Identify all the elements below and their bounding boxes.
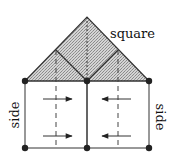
folding-diagram: square side side xyxy=(0,0,173,164)
vertex-dot-top-mid xyxy=(84,78,90,84)
vertex-dot-top-left xyxy=(22,78,28,84)
vertex-dot-bottom-right xyxy=(146,145,152,151)
vertex-dot-bottom-mid xyxy=(84,145,90,151)
vertex-dot-bottom-left xyxy=(22,145,28,151)
label-side-left: side xyxy=(7,101,22,128)
label-side-right: side xyxy=(153,104,168,131)
label-square: square xyxy=(110,26,155,41)
vertex-dot-top-right xyxy=(146,78,152,84)
